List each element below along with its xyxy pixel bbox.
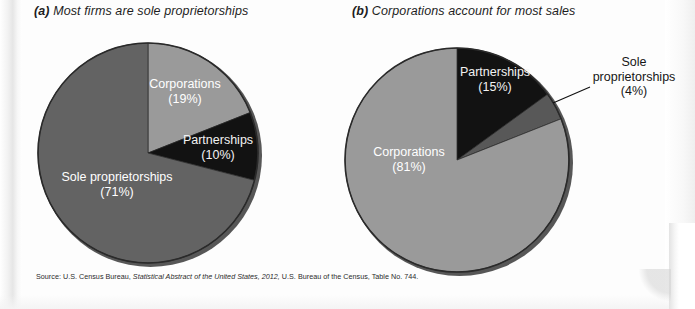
source-suffix: U.S. Bureau of the Census, Table No. 744… [282, 272, 419, 281]
pie-svg-sales: Partnerships(15%)Soleproprietorships(4%)… [340, 26, 695, 286]
figure-page: (a) Most firms are sole proprietorships … [0, 0, 695, 309]
panel-a-tag: (a) [34, 4, 50, 18]
panel-a-title: (a) Most firms are sole proprietorships [34, 4, 248, 18]
source-prefix: Source: U.S. Census Bureau, [36, 272, 131, 281]
panel-b-sales: (b) Corporations account for most sales … [340, 0, 695, 309]
panel-b-title-text: Corporations account for most sales [372, 4, 576, 18]
panel-a-firms: (a) Most firms are sole proprietorships … [0, 0, 340, 309]
panel-b-title: (b) Corporations account for most sales [352, 4, 575, 18]
leader-line-sole-proprietorships [553, 87, 590, 103]
slice-label-sole-proprietorships: Soleproprietorships(4%) [593, 55, 676, 98]
pie-svg-firms: Corporations(19%)Partnerships(10%)Sole p… [8, 18, 308, 268]
pie-chart-firms: Corporations(19%)Partnerships(10%)Sole p… [8, 18, 308, 268]
source-note: Source: U.S. Census Bureau, Statistical … [36, 272, 418, 281]
source-italic: Statistical Abstract of the United State… [133, 272, 280, 281]
panel-b-tag: (b) [352, 4, 368, 18]
panel-a-title-text: Most firms are sole proprietorships [53, 4, 248, 18]
pie-chart-sales: Partnerships(15%)Soleproprietorships(4%)… [340, 26, 695, 286]
